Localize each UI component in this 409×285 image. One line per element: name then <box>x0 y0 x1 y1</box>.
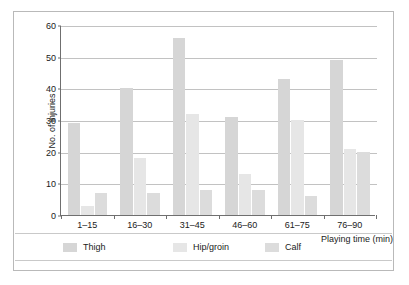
bar[interactable] <box>95 193 108 215</box>
y-tick-label: 30 <box>46 117 56 126</box>
y-tick-label: 20 <box>46 148 56 157</box>
x-tick-label: 61–75 <box>285 221 310 230</box>
x-tick-mark <box>114 215 115 219</box>
y-tick-label: 40 <box>46 85 56 94</box>
bar-group <box>219 26 272 215</box>
bar-group <box>324 26 377 215</box>
bar[interactable] <box>252 190 265 215</box>
bar-group <box>114 26 167 215</box>
bar[interactable] <box>173 38 186 215</box>
x-tick-label: 16–30 <box>127 221 152 230</box>
bar[interactable] <box>330 60 343 215</box>
bar[interactable] <box>68 123 81 215</box>
x-tick-mark <box>376 215 377 219</box>
x-tick-label: 76–90 <box>337 221 362 230</box>
legend-label: Thigh <box>83 243 106 252</box>
x-tick-mark <box>324 215 325 219</box>
x-tick-mark <box>271 215 272 219</box>
bar-group <box>271 26 324 215</box>
chart-legend: ThighHip/groinCalf <box>15 233 392 261</box>
plot-region: No. of injuries 0102030405060 1–1516–303… <box>60 26 375 216</box>
x-tick-mark <box>166 215 167 219</box>
bar[interactable] <box>305 196 318 215</box>
bar[interactable] <box>81 206 94 216</box>
bar[interactable] <box>134 158 147 215</box>
bar-group <box>61 26 114 215</box>
legend-label: Hip/groin <box>193 243 229 252</box>
x-tick-label: 31–45 <box>180 221 205 230</box>
figure-frame: No. of injuries 0102030405060 1–1516–303… <box>13 11 394 271</box>
y-tick-label: 60 <box>46 22 56 31</box>
legend-item[interactable]: Thigh <box>63 243 106 252</box>
x-tick-mark <box>219 215 220 219</box>
legend-label: Calf <box>285 243 301 252</box>
y-tick-label: 0 <box>51 212 56 221</box>
plot-area: 0102030405060 1–1516–3031–4546–6061–7576… <box>60 26 375 216</box>
bar[interactable] <box>239 174 252 215</box>
x-tick-label: 46–60 <box>232 221 257 230</box>
bar[interactable] <box>357 152 370 215</box>
bars-layer <box>61 26 375 215</box>
x-tick-label: 1–15 <box>77 221 97 230</box>
legend-item[interactable]: Hip/groin <box>173 243 229 252</box>
bar[interactable] <box>278 79 291 215</box>
bar-group <box>166 26 219 215</box>
y-tick-label: 50 <box>46 53 56 62</box>
bar[interactable] <box>225 117 238 215</box>
bar[interactable] <box>344 149 357 216</box>
x-tick-mark <box>61 215 62 219</box>
bar[interactable] <box>200 190 213 215</box>
bar[interactable] <box>147 193 160 215</box>
bar[interactable] <box>186 114 199 215</box>
legend-swatch-icon <box>265 243 279 252</box>
legend-item[interactable]: Calf <box>265 243 301 252</box>
bar[interactable] <box>291 120 304 215</box>
y-tick-label: 10 <box>46 180 56 189</box>
legend-swatch-icon <box>63 243 77 252</box>
legend-swatch-icon <box>173 243 187 252</box>
bar[interactable] <box>120 88 133 215</box>
